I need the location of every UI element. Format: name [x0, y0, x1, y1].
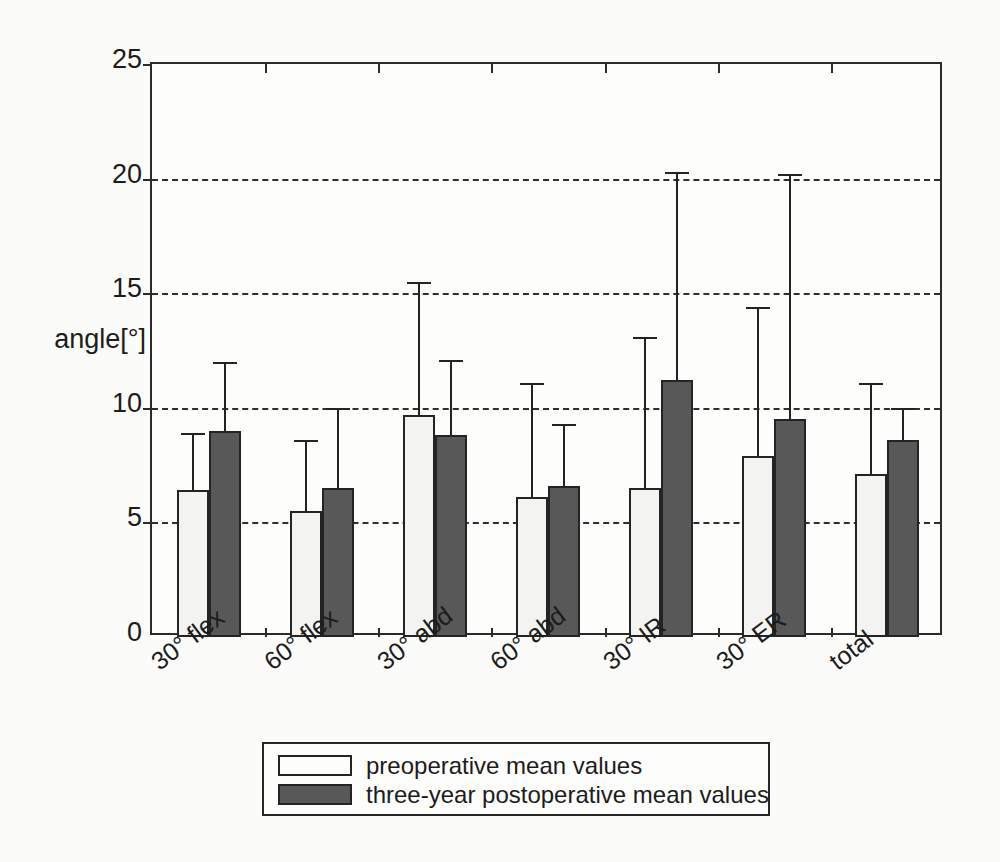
error-bar-cap [520, 383, 544, 385]
x-axis-tick-mark-bottom [718, 628, 720, 637]
error-bar-cap [665, 172, 689, 174]
error-bar-cap [326, 408, 350, 410]
x-axis-tick-mark-bottom [831, 628, 833, 637]
error-bar-cap [859, 383, 883, 385]
bar-preoperative [855, 474, 887, 637]
gridline [152, 408, 940, 410]
error-bar-cap [407, 282, 431, 284]
error-bar-stem [789, 174, 791, 419]
error-bar-stem [337, 408, 339, 488]
legend-label-preoperative: preoperative mean values [366, 754, 642, 778]
bar-postoperative [661, 380, 693, 637]
error-bar-cap [439, 360, 463, 362]
x-axis-tick-mark-top [491, 64, 493, 73]
y-axis-tick-label: 15 [12, 273, 142, 304]
error-bar-stem [644, 337, 646, 488]
error-bar-stem [450, 360, 452, 436]
x-axis-tick-mark-top [265, 64, 267, 73]
error-bar-cap [746, 307, 770, 309]
x-axis-tick-mark-top [718, 64, 720, 73]
y-axis-tick-mark [143, 293, 152, 295]
gridline [152, 179, 940, 181]
error-bar-stem [224, 362, 226, 431]
error-bar-stem [305, 440, 307, 511]
error-bar-cap [778, 174, 802, 176]
error-bar-cap [633, 337, 657, 339]
x-axis-tick-mark-bottom [265, 628, 267, 637]
error-bar-stem [870, 383, 872, 475]
error-bar-stem [192, 433, 194, 490]
bar-preoperative [403, 415, 435, 637]
y-axis-tick-label: 10 [12, 388, 142, 419]
error-bar-stem [902, 408, 904, 440]
error-bar-stem [757, 307, 759, 456]
x-axis-tick-mark-bottom [605, 628, 607, 637]
error-bar-cap [891, 408, 915, 410]
error-bar-stem [418, 282, 420, 415]
y-axis-tick-label: 20 [12, 159, 142, 190]
y-axis-tick-mark [143, 64, 152, 66]
legend-item-postoperative: three-year postoperative mean values [278, 780, 768, 809]
legend-label-postoperative: three-year postoperative mean values [366, 783, 769, 807]
y-axis-tick-mark [143, 408, 152, 410]
bar-chart-figure: angle[°] 0510152025 30° flex60° flex30° … [0, 0, 1000, 862]
error-bar-cap [213, 362, 237, 364]
error-bar-cap [552, 424, 576, 426]
plot-area [150, 62, 942, 635]
y-axis-tick-label: 25 [12, 44, 142, 75]
x-axis-tick-mark-top [605, 64, 607, 73]
chart-legend: preoperative mean values three-year post… [262, 742, 770, 816]
legend-item-preoperative: preoperative mean values [278, 751, 768, 780]
y-axis-title: angle[°] [12, 324, 146, 355]
error-bar-cap [181, 433, 205, 435]
bar-postoperative [774, 419, 806, 637]
x-axis-tick-mark-top [378, 64, 380, 73]
x-axis-tick-mark-bottom [491, 628, 493, 637]
y-axis-tick-label: 5 [12, 502, 142, 533]
error-bar-stem [531, 383, 533, 498]
error-bar-stem [563, 424, 565, 486]
x-axis-tick-mark-top [831, 64, 833, 73]
y-axis-tick-mark [143, 522, 152, 524]
gridline [152, 293, 940, 295]
x-axis-tick-mark-bottom [378, 628, 380, 637]
dark-square-swatch-icon [278, 784, 352, 805]
error-bar-stem [676, 172, 678, 381]
y-axis-tick-label: 0 [12, 617, 142, 648]
bar-postoperative [887, 440, 919, 637]
light-square-swatch-icon [278, 755, 352, 776]
y-axis-tick-mark [143, 179, 152, 181]
error-bar-cap [294, 440, 318, 442]
